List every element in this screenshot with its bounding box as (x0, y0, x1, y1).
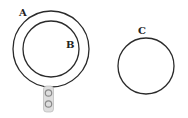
label-c: C (138, 25, 146, 36)
circle-c (118, 38, 174, 94)
label-b: B (66, 39, 74, 50)
label-a: A (18, 7, 27, 18)
circle-a (13, 11, 89, 87)
diagram-canvas: A B C (0, 0, 188, 118)
double-ring-connector-icon (44, 86, 54, 112)
